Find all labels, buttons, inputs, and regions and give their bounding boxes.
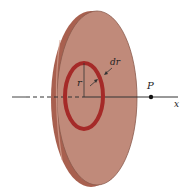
point-p-marker <box>149 95 153 99</box>
disk-face <box>57 11 137 185</box>
label-dr: dr <box>110 57 121 67</box>
label-x: x <box>174 99 179 109</box>
disk-diagram: r dr P x <box>0 0 188 191</box>
label-p: P <box>146 80 154 91</box>
